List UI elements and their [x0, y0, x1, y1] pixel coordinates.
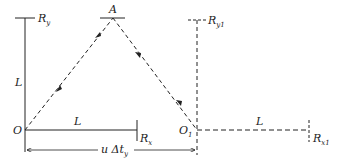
light-path-diagram: Ry A Ry1 L O L Rx O1 L Rx1 u Δty — [0, 0, 340, 165]
l-vertical-label: L — [14, 76, 22, 89]
point-o-label: O — [13, 124, 22, 137]
arrow-down-icon — [135, 52, 141, 58]
ry1-label: Ry1 — [207, 14, 225, 29]
light-path-down — [113, 18, 197, 130]
l-horizontal-moved-label: L — [255, 115, 263, 128]
point-o1-label: O1 — [179, 124, 193, 139]
arrow-up-icon — [56, 85, 62, 92]
point-a-label: A — [108, 3, 117, 16]
rx1-label: Rx1 — [312, 132, 330, 147]
l-horizontal-label: L — [73, 115, 81, 128]
arrow-up-icon-2 — [95, 32, 101, 38]
ry-label: Ry — [37, 12, 51, 27]
rx-label: Rx — [139, 132, 152, 147]
